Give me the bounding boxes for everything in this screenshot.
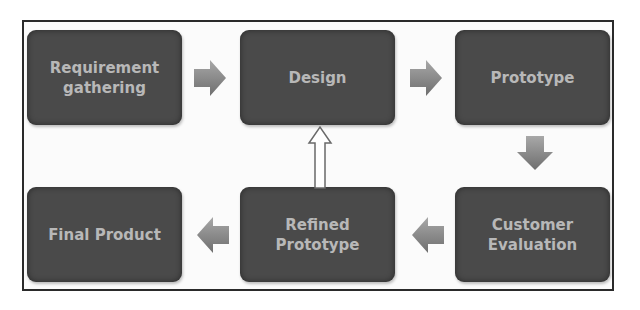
node-final-product: Final Product bbox=[27, 187, 182, 282]
arrow-right-icon bbox=[192, 58, 228, 98]
arrow-left-icon bbox=[410, 215, 446, 255]
arrow-right-icon bbox=[408, 58, 444, 98]
node-refined-prototype: Refined Prototype bbox=[240, 187, 395, 282]
node-customer-evaluation: Customer Evaluation bbox=[455, 187, 610, 282]
node-prototype: Prototype bbox=[455, 30, 610, 125]
arrow-left-icon bbox=[195, 215, 231, 255]
node-requirement-gathering: Requirement gathering bbox=[27, 30, 182, 125]
arrow-up-outline-icon bbox=[307, 125, 333, 189]
node-design: Design bbox=[240, 30, 395, 125]
arrow-down-icon bbox=[515, 134, 555, 174]
